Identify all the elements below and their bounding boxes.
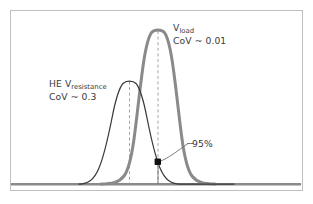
intersection-percent-label: 95% xyxy=(192,138,213,149)
figure-root: HE Vresistance CoV ~ 0.3 Vload CoV ~ 0.0… xyxy=(0,0,313,204)
load-label-subscript: load xyxy=(179,27,194,35)
resistance-label-line2: CoV ~ 0.3 xyxy=(49,91,107,102)
load-annotation-label: Vload CoV ~ 0.01 xyxy=(173,22,226,47)
resistance-label-line1: HE Vresistance xyxy=(49,78,107,91)
resistance-annotation-label: HE Vresistance CoV ~ 0.3 xyxy=(49,78,107,103)
intersection-marker-dot xyxy=(155,159,161,165)
resistance-label-prefix: HE V xyxy=(49,78,71,89)
load-label-line2: CoV ~ 0.01 xyxy=(173,35,226,46)
distribution-plot xyxy=(0,0,313,204)
resistance-label-subscript: resistance xyxy=(71,83,106,91)
load-label-line1: Vload xyxy=(173,22,226,35)
